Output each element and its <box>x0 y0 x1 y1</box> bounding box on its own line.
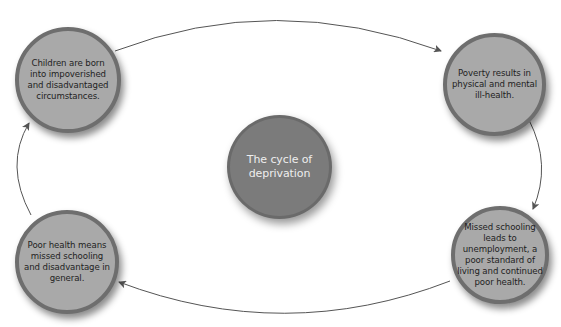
node-poverty-ill-health: Poverty results in physical and mental i… <box>443 33 546 136</box>
node-text: Poverty results in physical and mental i… <box>452 68 537 101</box>
node-text: Poor health means missed schooling and d… <box>24 240 110 284</box>
node-poor-health-missed-schooling: Poor health means missed schooling and d… <box>15 210 119 314</box>
center-text: The cycle of deprivation <box>247 153 312 181</box>
arrow-top <box>115 21 441 52</box>
node-text: Children are born into impoverished and … <box>28 58 109 102</box>
node-text: Missed schooling leads to unemployment, … <box>457 222 543 288</box>
arrow-bottom <box>119 281 450 313</box>
center-node-title: The cycle of deprivation <box>227 115 332 219</box>
arrow-left <box>17 123 31 215</box>
cycle-diagram: Children are born into impoverished and … <box>0 0 561 327</box>
node-children-born: Children are born into impoverished and … <box>15 27 121 133</box>
arrow-right <box>529 120 542 209</box>
node-missed-schooling-unemployment: Missed schooling leads to unemployment, … <box>451 206 549 304</box>
